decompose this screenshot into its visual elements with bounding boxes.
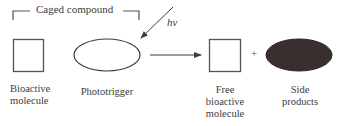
side-products-ellipse bbox=[266, 39, 332, 71]
plus-sign: + bbox=[251, 47, 257, 59]
label-line: products bbox=[272, 96, 328, 108]
side-products-label: Side products bbox=[272, 84, 328, 108]
phototrigger-ellipse bbox=[74, 39, 140, 71]
caged-compound-label: Caged compound bbox=[34, 3, 115, 15]
phototrigger-label: Phototrigger bbox=[72, 86, 142, 98]
hv-label: hv bbox=[167, 16, 177, 28]
label-line: Bioactive bbox=[10, 83, 50, 95]
bioactive-molecule-label: Bioactive molecule bbox=[10, 83, 50, 107]
label-line: bioactive bbox=[196, 96, 254, 108]
label-line: Phototrigger bbox=[72, 86, 142, 98]
free-bioactive-molecule-label: Free bioactive molecule bbox=[196, 84, 254, 120]
label-line: Free bbox=[196, 84, 254, 96]
label-line: molecule bbox=[196, 108, 254, 120]
label-line: molecule bbox=[10, 95, 50, 107]
bioactive-molecule-square bbox=[14, 40, 44, 72]
label-line: Side bbox=[272, 84, 328, 96]
free-bioactive-molecule-square bbox=[210, 40, 241, 72]
